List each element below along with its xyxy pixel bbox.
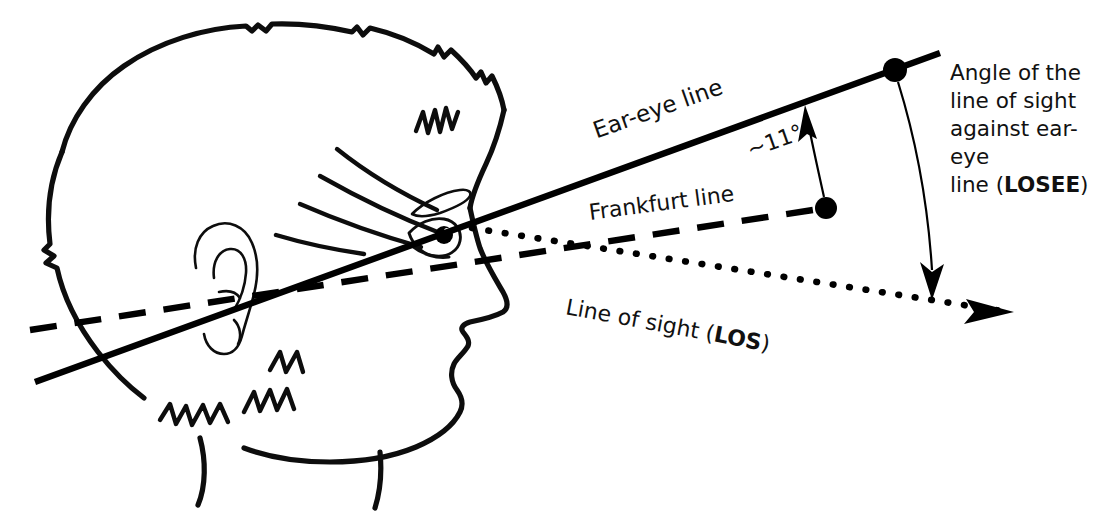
losee-abbreviation: LOSEE [1004, 172, 1080, 197]
face-profile-line [244, 208, 507, 462]
ear-lobe [234, 320, 240, 344]
losee-line-1: Angle of the [950, 59, 1112, 87]
ear-eye-line-solid [35, 53, 940, 382]
reference-lines-group [30, 53, 1014, 382]
hair-spikes-behind-jaw [270, 352, 303, 372]
anatomical-diagram: Ear-eye line ~11° Frankfurt line Line of… [0, 0, 1117, 517]
losee-line-4: line (LOSEE) [950, 171, 1112, 199]
hair-strand-sideburn [276, 235, 364, 254]
losee-line-4-prefix: line ( [950, 172, 1004, 197]
hair-spikes-temple [416, 108, 458, 133]
hair-strand-forehead-1 [337, 149, 437, 210]
hair-spikes-jaw [244, 389, 294, 412]
losee-line-2: line of sight [950, 87, 1112, 115]
cranium-outline [62, 24, 504, 152]
losee-line-4-suffix: ) [1080, 172, 1088, 197]
losee-line-3: against ear-eye [950, 115, 1112, 171]
hair-spikes-nape [160, 404, 228, 425]
neck-back-line [198, 438, 204, 505]
losee-annotation-block: Angle of the line of sight against ear-e… [950, 59, 1112, 199]
losee-arc [898, 82, 932, 270]
line-of-sight-arrowhead [964, 299, 1014, 324]
ear-eye-node-dot [883, 58, 907, 82]
frankfurt-node-dot [815, 197, 837, 219]
hair-strand-forehead-3 [300, 204, 421, 247]
forehead-to-brow [470, 110, 504, 208]
ear-outer-helix [195, 223, 257, 354]
